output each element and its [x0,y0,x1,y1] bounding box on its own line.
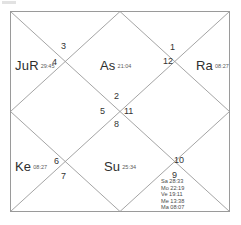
planet-abbr-mars: Ma [161,204,169,210]
planet-degree-mars: 08:07 [170,204,184,210]
planet-degree-jupiter-retrograde: 29:45 [41,63,55,69]
planet-degree-moon: 22:19 [170,185,184,191]
house-number-5: 5 [100,107,105,116]
placement-ketu: Ke08:27 [15,158,47,174]
planet-abbr-mercury: Me [161,198,169,204]
house-number-11: 11 [124,107,133,116]
planet-degree-sun: 25:34 [122,164,136,170]
placement-jupiter-retrograde: JuR29:45 [15,57,54,73]
house-number-7: 7 [61,172,66,181]
house-number-10: 10 [174,156,184,165]
planet-degree-rahu: 08:27 [215,63,229,69]
house-number-6: 6 [54,157,59,166]
planet-degree-ascendant: 21:04 [118,63,132,69]
planet-list-row-moon: Mo22:19 [161,185,207,192]
planet-list-row-mars: Ma08:07 [161,204,207,211]
house-number-8: 8 [114,120,119,129]
house-number-12: 12 [163,57,173,66]
house-number-3: 3 [61,42,66,51]
placement-rahu: Ra08:27 [196,57,229,73]
planet-degree-mercury: 13:38 [170,198,184,204]
planet-abbr-sun: Su [104,159,120,174]
house-number-2: 2 [114,92,119,101]
planet-list-row-mercury: Me13:38 [161,198,207,205]
planet-degree-saturn: 28:33 [169,178,183,184]
placement-ascendant: As21:04 [100,57,131,73]
planet-abbr-venus: Ve [161,191,168,197]
planet-abbr-ketu: Ke [15,159,31,174]
placement-sun: Su25:34 [104,158,136,174]
house-number-1: 1 [170,43,175,52]
planet-abbr-moon: Mo [161,185,169,191]
planet-list-row-venus: Ve19:11 [161,191,207,198]
planet-degree-ketu: 08:27 [33,164,47,170]
planet-list-row-saturn: Sa28:33 [161,178,207,185]
planet-abbr-rahu: Ra [196,58,213,73]
planet-list-house-9: Sa28:33 Mo22:19 Ve19:11 Me13:38 Ma08:07 [161,178,207,211]
vedic-birth-chart: 1 2 3 4 5 6 7 8 9 10 11 12 JuR29:45 As21… [0,0,241,225]
planet-abbr-saturn: Sa [161,178,168,184]
planet-degree-venus: 19:11 [169,191,183,197]
planet-abbr-ascendant: As [100,58,116,73]
planet-abbr-jupiter-retrograde: JuR [15,58,39,73]
